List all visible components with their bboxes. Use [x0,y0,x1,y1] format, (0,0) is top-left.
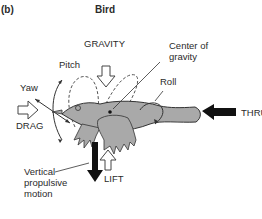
vertical-motion-label-3: motion [24,188,53,199]
yaw-label: Yaw [20,82,38,93]
drag-arrow [18,101,38,119]
pitch-label: Pitch [59,59,80,70]
lift-label: LIFT [104,173,124,184]
thrust-label: THRUST [241,107,262,118]
center-of-gravity-label-1: Center of [169,40,208,51]
gravity-arrow [97,66,115,87]
vertical-motion-label-1: Vertical [24,166,55,177]
thrust-arrow [202,104,236,120]
center-of-gravity-label-2: gravity [169,51,197,62]
figure-title: Bird [95,4,115,15]
gravity-label: GRAVITY [84,38,125,49]
roll-label: Roll [160,76,176,87]
vertical-motion-arrow [87,142,103,182]
panel-label: (b) [1,4,14,15]
center-of-gravity-dot [108,110,112,114]
vertical-motion-label-2: propulsive [24,177,67,188]
drag-label: DRAG [16,120,43,131]
